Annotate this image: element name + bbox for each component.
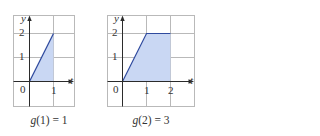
origin-label: 0 xyxy=(113,83,119,95)
y-axis-label: y xyxy=(114,12,119,24)
y-tick-label-1: 1 xyxy=(112,50,118,62)
x-tick-label-1: 1 xyxy=(144,84,150,96)
x-axis-label: t xyxy=(190,74,193,86)
y-tick-label-2: 2 xyxy=(112,26,118,38)
caption-argument: (2) xyxy=(138,114,151,126)
x-tick-label-2: 2 xyxy=(168,84,174,96)
y-axis-arrow-icon xyxy=(120,16,124,22)
caption-g2: g(2) = 3 xyxy=(111,114,191,126)
caption-value: = 3 xyxy=(152,114,170,126)
